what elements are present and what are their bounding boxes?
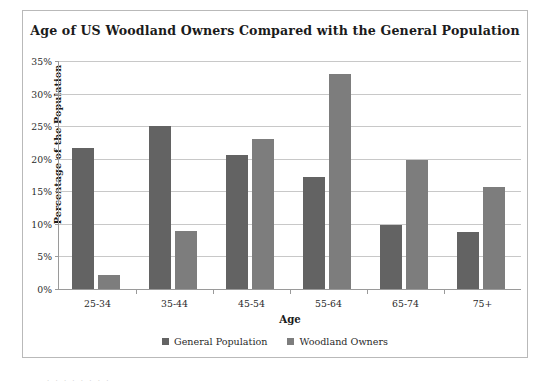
chart-figure: Age of US Woodland Owners Compared with …: [22, 10, 528, 358]
bar[interactable]: [149, 126, 171, 289]
x-tick-label: 65-74: [367, 298, 444, 309]
bar-group: 55-64: [290, 61, 367, 289]
bar-group: 25-34: [59, 61, 136, 289]
y-tick-label: 35%: [31, 56, 52, 67]
x-tick-mark: [290, 289, 291, 294]
bar[interactable]: [457, 232, 479, 289]
x-tick-label: 55-64: [290, 298, 367, 309]
legend-swatch-icon: [162, 338, 169, 345]
y-tick-label: 30%: [31, 88, 52, 99]
bar[interactable]: [226, 155, 248, 289]
bar[interactable]: [175, 231, 197, 289]
x-axis-title: Age: [59, 313, 521, 325]
bar[interactable]: [98, 275, 120, 289]
chart-title: Age of US Woodland Owners Compared with …: [23, 23, 527, 38]
chart-legend: General PopulationWoodland Owners: [23, 336, 527, 347]
x-tick-label: 35-44: [136, 298, 213, 309]
y-tick-label: 15%: [31, 186, 52, 197]
x-tick-mark: [136, 289, 137, 294]
y-tick-label: 0%: [37, 284, 52, 295]
legend-item[interactable]: General Population: [162, 336, 267, 347]
bar[interactable]: [380, 225, 402, 289]
x-tick-mark: [367, 289, 368, 294]
y-tick-label: 20%: [31, 153, 52, 164]
bar-group: 75+: [444, 61, 521, 289]
bar[interactable]: [406, 160, 428, 289]
bar-groups: 25-3435-4445-5455-6465-7475+: [59, 61, 521, 289]
bar[interactable]: [303, 177, 325, 289]
x-tick-mark: [213, 289, 214, 294]
bar[interactable]: [72, 148, 94, 289]
x-tick-label: 45-54: [213, 298, 290, 309]
y-tick-mark: [55, 289, 59, 290]
bar-group: 65-74: [367, 61, 444, 289]
y-tick-label: 10%: [31, 218, 52, 229]
bar[interactable]: [483, 187, 505, 289]
bar[interactable]: [252, 139, 274, 289]
scan-artifact-text: · · · · · · · ·: [47, 377, 467, 385]
bar[interactable]: [329, 74, 351, 289]
x-tick-mark: [444, 289, 445, 294]
x-tick-label: 75+: [444, 298, 521, 309]
y-tick-label: 25%: [31, 121, 52, 132]
legend-item[interactable]: Woodland Owners: [287, 336, 388, 347]
legend-swatch-icon: [287, 338, 294, 345]
bar-group: 45-54: [213, 61, 290, 289]
legend-label: Woodland Owners: [299, 336, 388, 347]
plot-area: 0%5%10%15%20%25%30%35% 25-3435-4445-5455…: [59, 61, 521, 289]
bar-group: 35-44: [136, 61, 213, 289]
y-tick-label: 5%: [37, 251, 52, 262]
legend-label: General Population: [174, 336, 267, 347]
x-tick-label: 25-34: [59, 298, 136, 309]
